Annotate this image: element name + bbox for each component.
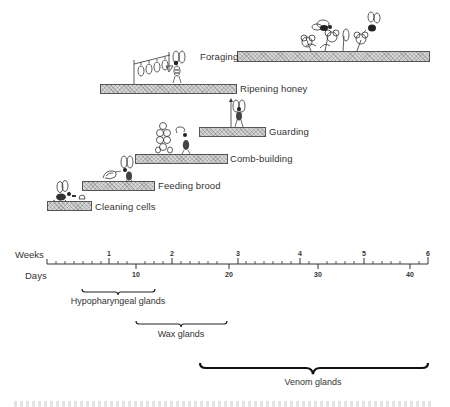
bar-ripening-honey — [100, 84, 237, 94]
bar-feeding-brood — [82, 181, 155, 191]
weeks-axis-title: Weeks — [15, 249, 44, 260]
flowers-icon — [301, 29, 368, 51]
week-tick-2: 2 — [170, 250, 174, 257]
bar-cleaning-cells — [47, 201, 92, 211]
day-tick-20: 20 — [225, 271, 233, 278]
bee-feeding-larva-icon — [115, 156, 133, 182]
bar-comb-building — [135, 154, 228, 164]
day-tick-40: 40 — [406, 271, 414, 278]
time-axis — [47, 257, 428, 269]
honeycomb-cells-icon — [156, 123, 173, 154]
week-tick-1: 1 — [107, 250, 111, 257]
week-tick-5: 5 — [362, 250, 366, 257]
label-wax-glands: Wax glands — [158, 329, 205, 339]
day-tick-30: 30 — [314, 271, 322, 278]
label-venom-glands: Venom glands — [284, 377, 341, 387]
week-tick-3: 3 — [236, 250, 240, 257]
bee-building-comb-icon — [176, 127, 190, 154]
week-tick-4: 4 — [298, 250, 302, 257]
bar-guarding — [199, 127, 266, 137]
label-foraging: Foraging — [200, 51, 238, 62]
larva-icon — [103, 171, 116, 179]
guard-bee-spear-icon — [229, 98, 245, 127]
venom-bracket — [200, 363, 428, 374]
cropped-caption-text — [14, 401, 434, 407]
label-hypopharyngeal-glands: Hypopharyngeal glands — [71, 296, 166, 306]
label-ripening-honey: Ripening honey — [240, 83, 307, 94]
week-tick-6: 6 — [426, 250, 430, 257]
label-comb-building: Comb-building — [230, 153, 293, 164]
bee-cleaning-icon — [53, 181, 85, 202]
label-guarding: Guarding — [269, 126, 309, 137]
bee-on-flower-icon — [312, 20, 332, 31]
flying-bee-icon — [363, 12, 380, 33]
label-cleaning-cells: Cleaning cells — [95, 201, 156, 212]
bar-foraging — [237, 51, 430, 62]
bee-age-polyethism-diagram: Cleaning cells Feeding brood Comb-buildi… — [0, 0, 450, 407]
label-feeding-brood: Feeding brood — [158, 180, 221, 191]
day-tick-10: 10 — [132, 271, 140, 278]
hypopharyngeal-bracket — [82, 289, 155, 295]
days-axis-title: Days — [25, 270, 47, 281]
honey-droplets-icon — [134, 52, 173, 84]
wax-bracket — [136, 321, 227, 327]
bee-holding-droplet-icon — [173, 51, 185, 83]
